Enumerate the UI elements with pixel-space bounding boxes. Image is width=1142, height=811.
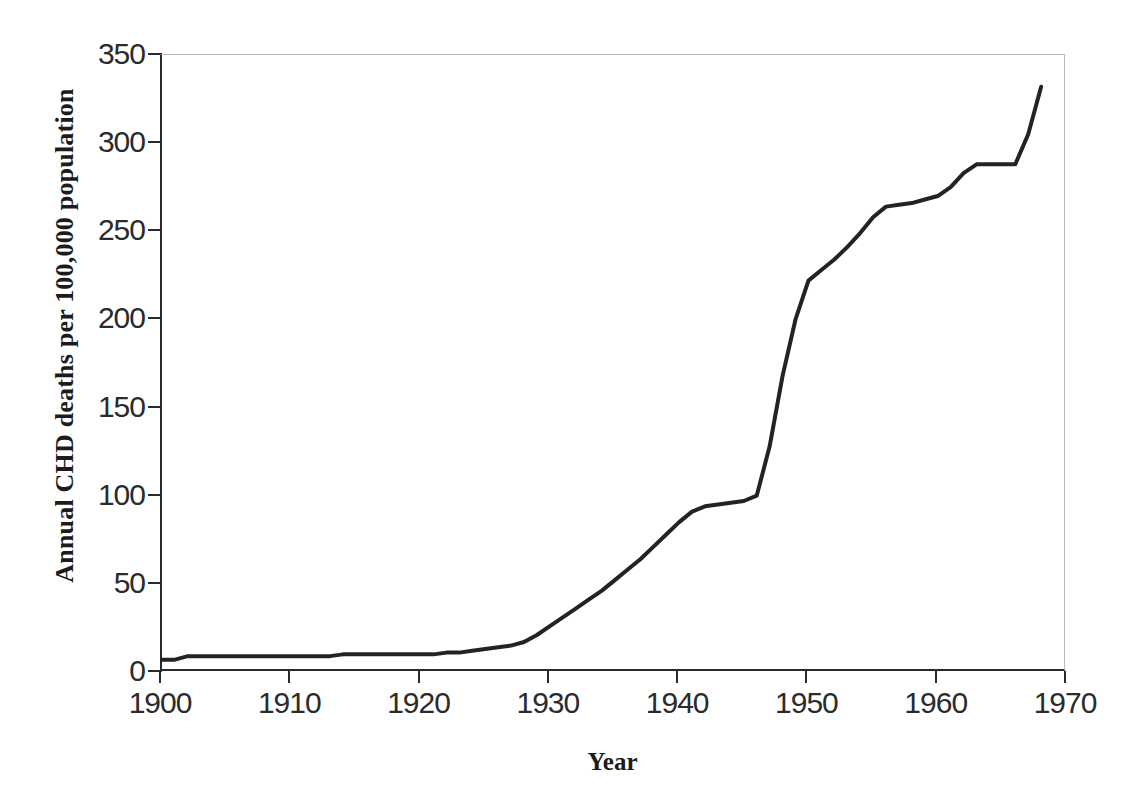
x-tick-mark-1910 [288, 671, 290, 683]
chd-series-polyline [162, 87, 1041, 660]
x-tick-label-1950: 1950 [746, 686, 866, 720]
x-tick-mark-1960 [935, 671, 937, 683]
chd-mortality-line-chart: Annual CHD deaths per 100,000 population… [0, 0, 1142, 811]
x-tick-mark-1940 [676, 671, 678, 683]
y-tick-label-250: 250 [65, 213, 145, 247]
x-tick-label-1930: 1930 [488, 686, 608, 720]
x-axis-title: Year [160, 748, 1065, 776]
y-tick-label-100: 100 [65, 478, 145, 512]
x-axis-tick-labels: 19001910192019301940195019601970 [160, 686, 1065, 726]
x-tick-label-1900: 1900 [100, 686, 220, 720]
x-tick-mark-1950 [805, 671, 807, 683]
x-tick-mark-1920 [418, 671, 420, 683]
x-tick-label-1920: 1920 [359, 686, 479, 720]
x-tick-mark-1930 [547, 671, 549, 683]
y-tick-label-300: 300 [65, 125, 145, 159]
y-tick-label-350: 350 [65, 37, 145, 71]
data-series-line [162, 55, 1067, 672]
x-tick-label-1940: 1940 [617, 686, 737, 720]
y-tick-label-200: 200 [65, 301, 145, 335]
x-axis-tick-marks [160, 671, 1065, 685]
plot-area [160, 54, 1065, 671]
y-tick-label-50: 50 [65, 566, 145, 600]
y-tick-label-0: 0 [65, 654, 145, 688]
x-tick-mark-1970 [1064, 671, 1066, 683]
x-tick-label-1960: 1960 [876, 686, 996, 720]
y-axis-tick-labels: 050100150200250300350 [50, 54, 145, 671]
x-tick-label-1910: 1910 [229, 686, 349, 720]
x-tick-label-1970: 1970 [1005, 686, 1125, 720]
y-tick-label-150: 150 [65, 390, 145, 424]
x-tick-mark-1900 [159, 671, 161, 683]
